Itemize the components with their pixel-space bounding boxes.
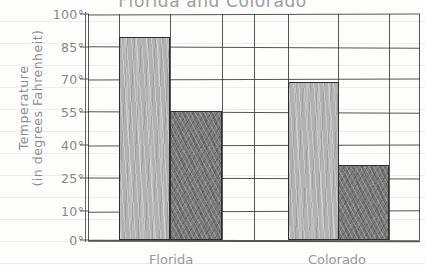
bar-fill-texture [289, 83, 338, 239]
gridline-vertical-8 [419, 14, 420, 240]
x-tick-label-colorado: Colorado [254, 252, 420, 266]
bar-fill-texture [120, 38, 169, 239]
gridline-vertical-0 [88, 14, 89, 240]
y-axis-title-line-1: Temperature [17, 66, 31, 151]
y-tick-label-55: 55° [40, 105, 84, 120]
bar-fill-texture [339, 166, 388, 239]
gridline-vertical-3 [222, 14, 223, 240]
gridline-0-baseline [88, 240, 420, 243]
plot-area [88, 14, 420, 240]
bar-colorado-winter[interactable] [338, 165, 389, 240]
bar-florida-winter[interactable] [170, 111, 222, 240]
bar-fill-texture [171, 112, 221, 239]
x-tick-label-florida: Florida [88, 252, 254, 266]
gridline-vertical-7 [389, 14, 390, 240]
gridline-vertical-4 [254, 14, 255, 240]
y-tick-label-40: 40° [40, 138, 84, 153]
y-axis-tick-labels: 0° 10° 25° 40° 55° 70° 85° 100° [38, 0, 84, 266]
y-tick-label-0: 0° [40, 233, 84, 248]
bar-florida-summer[interactable] [119, 37, 170, 240]
y-tick-label-100: 100° [40, 7, 84, 22]
x-axis-tick-labels: Florida Colorado [88, 252, 420, 266]
y-tick-label-10: 10° [40, 204, 84, 219]
y-tick-label-70: 70° [40, 72, 84, 87]
handdrawn-bar-chart-page: Florida and Colorado Temperature (in deg… [0, 0, 425, 266]
bar-colorado-summer[interactable] [288, 82, 339, 240]
y-tick-label-25: 25° [40, 171, 84, 186]
y-tick-label-85: 85° [40, 40, 84, 55]
